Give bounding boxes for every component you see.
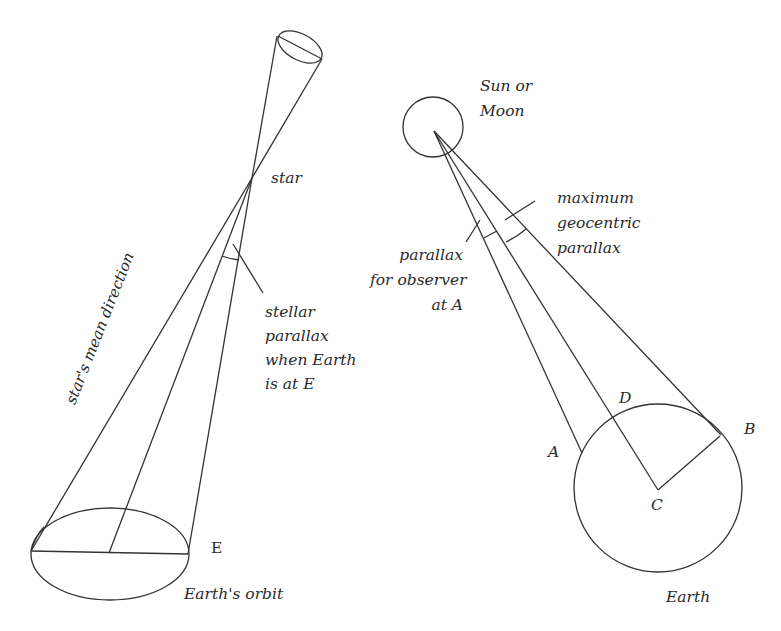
stellar-parallax-arc: [222, 256, 239, 260]
mean-direction-line: [109, 178, 252, 553]
radius-cb: [658, 436, 720, 490]
geocentric-parallax-arc: [506, 229, 526, 242]
stellar-parallax-label: stellar parallax when Earth is at E: [265, 300, 357, 396]
line-to-c-through-d: [434, 131, 658, 490]
geocentric-parallax-diagram: [403, 97, 742, 572]
observer-parallax-pointer: [466, 220, 480, 242]
observer-parallax-arc: [484, 231, 497, 238]
lower-cone-left: [31, 178, 252, 551]
observer-parallax-label: parallax for observer at A: [370, 243, 463, 318]
projected-orbit-chord: [278, 36, 322, 59]
stellar-parallax-pointer: [233, 244, 263, 293]
earths-orbit-label: Earth's orbit: [184, 585, 283, 604]
point-d-label: D: [619, 389, 631, 408]
max-geocentric-parallax-label: maximum geocentric parallax: [557, 186, 641, 261]
point-c-label: C: [651, 496, 663, 515]
line-to-b: [434, 131, 721, 435]
lower-cone-right-to-e: [188, 178, 252, 554]
point-b-label: B: [744, 420, 755, 439]
star-label: star: [271, 169, 302, 188]
earth-label: Earth: [666, 588, 710, 607]
earth-circle: [574, 404, 742, 572]
sun-or-moon-label: Sun or Moon: [480, 74, 532, 124]
sun-or-moon-circle: [403, 97, 463, 157]
point-e-label: E: [211, 539, 222, 558]
parallax-figure: star stellar parallax when Earth is at E…: [0, 0, 781, 631]
point-a-label: A: [548, 443, 559, 462]
